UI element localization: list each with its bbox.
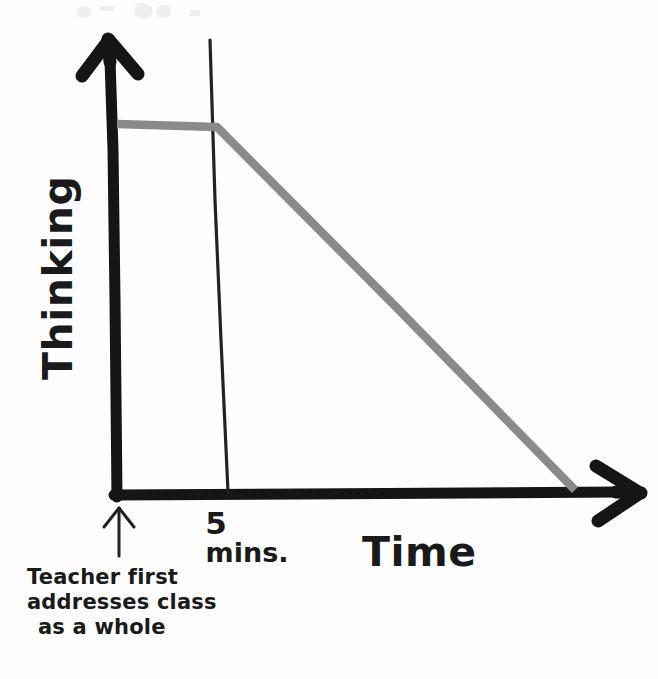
annotation-line-2: addresses class xyxy=(27,590,217,614)
annotation-line-3: as a whole xyxy=(38,615,166,639)
tick-label-value: 5 xyxy=(205,505,227,541)
tick-label-unit: mins. xyxy=(206,537,289,568)
handdrawn-chart-page: Thinking Time 5 mins. Teacher first addr… xyxy=(0,0,658,679)
y-axis-label: Thinking xyxy=(34,176,82,380)
thinking-vs-time-chart: Thinking Time 5 mins. Teacher first addr… xyxy=(0,0,658,679)
annotation-line-1: Teacher first xyxy=(27,565,178,589)
x-axis-label: Time xyxy=(362,528,477,576)
